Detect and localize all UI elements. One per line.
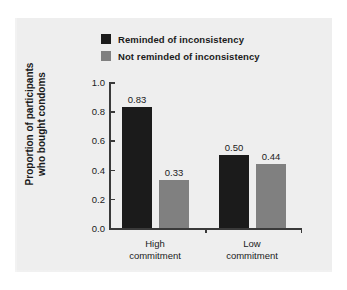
bar-value-low-reminded: 0.50 bbox=[225, 142, 244, 153]
figure-container: Reminded of inconsistency Not reminded o… bbox=[0, 0, 347, 290]
bar-value-high-reminded: 0.83 bbox=[128, 94, 147, 105]
bar-high-commitment-reminded: 0.83 bbox=[122, 107, 152, 228]
y-tick-1: 0.2 bbox=[109, 199, 115, 201]
y-tick-5: 1.0 bbox=[109, 82, 115, 84]
legend-label-not-reminded: Not reminded of inconsistency bbox=[118, 51, 260, 62]
y-tick-label-2: 0.4 bbox=[92, 164, 105, 175]
x-tick-group-separator bbox=[205, 228, 207, 233]
y-tick-label-0: 0.0 bbox=[92, 223, 105, 234]
y-axis-title-line-2: who bought condoms bbox=[36, 44, 48, 204]
x-tick-right-end bbox=[301, 228, 303, 233]
legend-item-reminded: Reminded of inconsistency bbox=[101, 32, 301, 46]
y-tick-3: 0.6 bbox=[109, 140, 115, 142]
x-axis-group-label-low: Low commitment bbox=[226, 238, 278, 261]
bar-value-low-not-reminded: 0.44 bbox=[262, 151, 281, 162]
legend-swatch-gray bbox=[101, 51, 111, 61]
bar-high-commitment-not-reminded: 0.33 bbox=[159, 180, 189, 228]
legend-label-reminded: Reminded of inconsistency bbox=[118, 34, 244, 45]
bar-low-commitment-not-reminded: 0.44 bbox=[256, 164, 286, 228]
x-axis-group-label-high: High commitment bbox=[129, 238, 181, 261]
bar-low-commitment-reminded: 0.50 bbox=[219, 155, 249, 228]
y-tick-label-3: 0.6 bbox=[92, 135, 105, 146]
group-label-high-line-2: commitment bbox=[129, 250, 181, 262]
bar-value-high-not-reminded: 0.33 bbox=[165, 167, 184, 178]
y-tick-label-4: 0.8 bbox=[92, 106, 105, 117]
chart-legend: Reminded of inconsistency Not reminded o… bbox=[101, 32, 301, 66]
y-tick-2: 0.4 bbox=[109, 170, 115, 172]
legend-swatch-dark bbox=[101, 34, 111, 44]
group-label-high-line-1: High bbox=[129, 238, 181, 250]
y-tick-label-5: 1.0 bbox=[92, 77, 105, 88]
group-label-low-line-2: commitment bbox=[226, 250, 278, 262]
y-axis-title-line-1: Proportion of participants bbox=[24, 44, 36, 204]
plot-area: 0.0 0.2 0.4 0.6 0.8 1.0 0.83 0.33 0.50 bbox=[109, 82, 302, 228]
y-tick-label-1: 0.2 bbox=[92, 193, 105, 204]
y-tick-4: 0.8 bbox=[109, 111, 115, 113]
y-axis-line bbox=[109, 82, 111, 228]
y-axis-title: Proportion of participants who bought co… bbox=[24, 44, 48, 204]
y-tick-0: 0.0 bbox=[109, 228, 115, 230]
legend-item-not-reminded: Not reminded of inconsistency bbox=[101, 49, 301, 63]
group-label-low-line-1: Low bbox=[226, 238, 278, 250]
